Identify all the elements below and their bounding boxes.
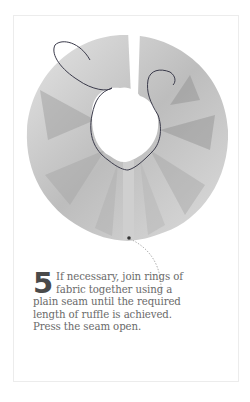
ruffle-illustration [0, 0, 250, 300]
fabric-ring [27, 35, 228, 241]
step-instruction: 5If necessary, join rings of fabric toge… [33, 271, 193, 334]
step-text: If necessary, join rings of fabric toget… [33, 271, 183, 332]
step-number: 5 [33, 272, 53, 294]
seam-strip [123, 160, 134, 240]
